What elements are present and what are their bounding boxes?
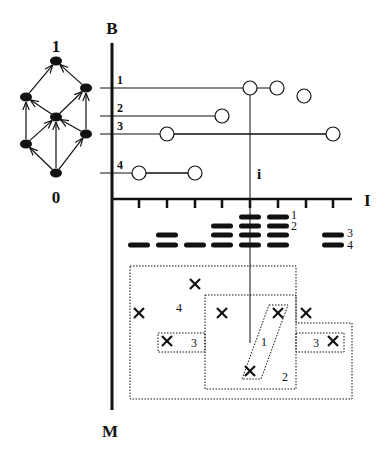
region-label: 3 bbox=[0, 0, 6, 3]
b-row-label: 2 bbox=[117, 101, 123, 115]
bar-segment bbox=[322, 243, 344, 248]
bar-segment bbox=[239, 233, 261, 238]
bar-segment bbox=[211, 224, 233, 229]
lattice-node bbox=[80, 130, 92, 139]
bar-segment bbox=[267, 233, 289, 238]
lattice-edge bbox=[30, 120, 53, 140]
bar-segment bbox=[128, 243, 150, 248]
bar-stacks: 1234 bbox=[128, 208, 353, 252]
bar-segment bbox=[184, 243, 206, 248]
b-row-circle bbox=[132, 166, 146, 180]
lattice-edge bbox=[30, 147, 53, 169]
lattice-edge bbox=[29, 65, 53, 93]
m-axis-label: M bbox=[102, 422, 118, 441]
lattice-bottom-label: 0 bbox=[52, 188, 61, 207]
bar-segment bbox=[211, 233, 233, 238]
bar-label: 2 bbox=[291, 219, 297, 233]
lattice-edge bbox=[30, 100, 52, 114]
bar-segment bbox=[239, 243, 261, 248]
bar-segment bbox=[156, 243, 178, 248]
bar-segment bbox=[267, 215, 289, 220]
b-row-circle bbox=[215, 109, 229, 123]
lattice-node bbox=[50, 113, 62, 122]
lattice-edge bbox=[60, 64, 83, 84]
bar-segment bbox=[322, 233, 344, 238]
lattice-node bbox=[20, 93, 32, 102]
lattice-edge bbox=[60, 91, 83, 113]
b-row-circle bbox=[243, 81, 257, 95]
b-row-circle bbox=[160, 127, 174, 141]
b-axis-label: B bbox=[106, 19, 117, 38]
lattice-graph bbox=[20, 57, 92, 178]
lattice-node bbox=[20, 140, 32, 149]
b-rows: 1234 bbox=[100, 73, 340, 180]
lattice-node bbox=[50, 57, 62, 66]
region-label: 2 bbox=[282, 370, 288, 384]
lattice-node bbox=[50, 169, 62, 178]
i-axis-label: I bbox=[364, 191, 371, 210]
b-row-circle bbox=[326, 127, 340, 141]
bar-segment bbox=[211, 243, 233, 248]
bar-segment bbox=[239, 224, 261, 229]
bar-label: 4 bbox=[347, 238, 353, 252]
bar-segment bbox=[267, 243, 289, 248]
diagram-canvas: 1 0 B I M 1234 i 1234 431233 bbox=[0, 0, 388, 455]
lattice-projection-diagram: 1 0 B I M 1234 i 1234 431233 bbox=[0, 0, 388, 455]
b-row-circle bbox=[188, 166, 202, 180]
region-label: 1 bbox=[261, 335, 267, 349]
region-label: 4 bbox=[176, 301, 182, 315]
bar-segment bbox=[239, 215, 261, 220]
lattice-top-label: 1 bbox=[52, 37, 61, 56]
region-4-outer bbox=[130, 266, 352, 399]
b-row-circle bbox=[297, 89, 311, 103]
b-row-label: 1 bbox=[117, 73, 123, 87]
cross-markers bbox=[134, 279, 338, 376]
b-row-label: 4 bbox=[117, 158, 123, 172]
lattice-node bbox=[80, 84, 92, 93]
lattice-edge bbox=[60, 119, 81, 131]
focus-label: i bbox=[257, 166, 261, 182]
bar-segment bbox=[267, 224, 289, 229]
b-row-circle bbox=[270, 81, 284, 95]
b-row-label: 3 bbox=[117, 119, 123, 133]
region-label: 3 bbox=[313, 336, 319, 350]
region-label: 3 bbox=[191, 336, 197, 350]
bar-segment bbox=[156, 233, 178, 238]
lattice-edge bbox=[59, 138, 83, 169]
